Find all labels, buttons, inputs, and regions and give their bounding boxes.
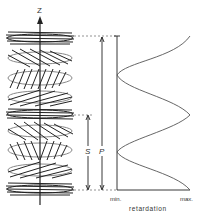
cholesteric-helix-diagram: Z S P min. max. retardation <box>0 0 200 218</box>
pitch-arrow: P <box>98 37 106 190</box>
pitch-label: P <box>99 147 105 156</box>
x-axis-min-label: min. <box>110 196 122 202</box>
retardation-curve <box>117 36 190 190</box>
x-axis-max-label: max. <box>180 196 193 202</box>
reference-lines <box>74 36 117 190</box>
retardation-plot: min. max. retardation <box>110 36 193 212</box>
z-axis-arrow-icon <box>37 16 43 24</box>
z-axis-label: Z <box>37 6 42 15</box>
x-axis-label: retardation <box>129 205 167 212</box>
half-pitch-arrow: S <box>84 115 92 190</box>
half-pitch-label: S <box>85 147 91 156</box>
